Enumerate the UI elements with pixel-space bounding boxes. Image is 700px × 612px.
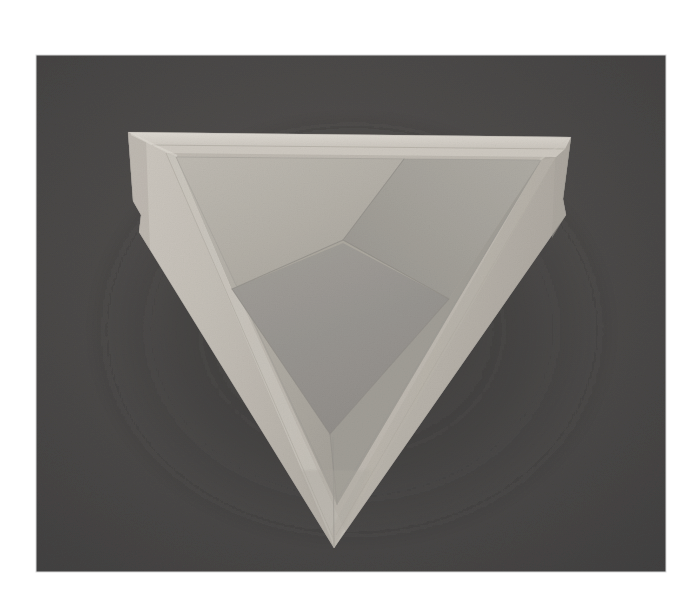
origami-box-photograph (0, 0, 700, 612)
film-grain-overlay (36, 55, 666, 572)
photo-frame: Folded paper triangular box seen from ab… (0, 0, 700, 612)
